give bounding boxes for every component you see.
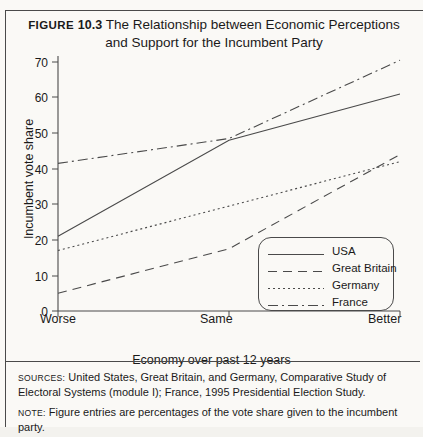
sources-note-text: United States, Great Britain, and German… — [18, 371, 386, 398]
figure-title-line1: The Relationship between Economic Percep… — [106, 17, 400, 32]
notes-divider — [6, 361, 420, 362]
legend-swatch-dashed-icon — [268, 271, 324, 272]
figure-number-label: Figure — [28, 19, 74, 31]
panel-top-border — [5, 10, 423, 11]
series-line-usa — [58, 94, 400, 236]
legend-swatch-dotted-icon — [268, 288, 324, 289]
legend-item-great-britain: Great Britain — [268, 263, 388, 279]
x-axis-label: Economy over past 12 years — [0, 353, 423, 367]
legend-label-usa: USA — [332, 245, 356, 257]
legend-swatch-solid-icon — [268, 254, 324, 255]
sources-note-head: Sources: — [18, 373, 65, 383]
legend-item-germany: Germany — [268, 280, 388, 296]
legend-label-germany: Germany — [332, 279, 379, 291]
chart-legend: USA Great Britain Germany France — [258, 237, 394, 311]
legend-label-france: France — [332, 296, 368, 308]
legend-item-usa: USA — [268, 246, 388, 262]
legend-swatch-dashdot-icon — [268, 305, 324, 306]
figure-notes: Sources: United States, Great Britain, a… — [18, 370, 410, 437]
legend-label-great-britain: Great Britain — [332, 262, 397, 274]
figure-number: 10.3 — [78, 18, 102, 32]
series-line-france — [58, 60, 400, 163]
general-note-head: Note: — [18, 408, 46, 418]
legend-item-france: France — [268, 297, 388, 313]
sources-note: Sources: United States, Great Britain, a… — [18, 370, 410, 399]
general-note-text: Figure entries are percentages of the vo… — [18, 406, 397, 433]
general-note: Note: Figure entries are percentages of … — [18, 405, 410, 434]
chart-plot-area: Incumbent vote share 70 60 50 40 30 20 1… — [0, 44, 423, 334]
